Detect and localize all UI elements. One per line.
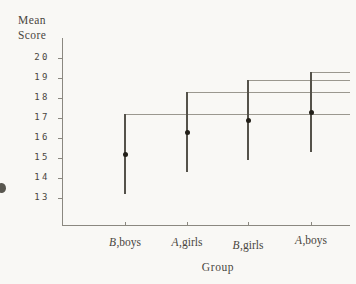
y-tick-mark [58,78,62,79]
x-axis [62,225,350,226]
y-tick-label: 18 [22,92,50,102]
y-tick-label: 13 [22,192,50,202]
group-school-letter: B [233,239,241,251]
group-school-letter: A [172,236,180,248]
group-label-rest: ,boys [302,234,327,246]
x-tick-mark [187,222,188,226]
x-tick-mark [311,222,312,226]
reference-line [125,114,350,115]
y-tick-mark [58,58,62,59]
y-tick-mark [58,138,62,139]
y-tick-label: 15 [22,152,50,162]
mean-point [309,110,314,115]
x-tick-label: B,girls [233,239,264,251]
group-label-rest: ,girls [240,239,263,251]
reference-line [187,92,350,93]
y-tick-mark [58,198,62,199]
x-tick-mark [248,222,249,226]
reference-line [311,72,350,73]
mean-point [246,118,251,123]
x-axis-title: Group [202,261,234,273]
y-axis-title-line2: Score [18,28,46,43]
y-tick-mark [58,98,62,99]
y-tick-mark [58,178,62,179]
x-tick-label: B,boys [109,236,141,248]
y-tick-mark [58,158,62,159]
mean-point [123,152,128,157]
x-tick-label: A,boys [295,234,327,246]
y-tick-label: 19 [22,72,50,82]
y-tick-label: 17 [22,112,50,122]
y-axis [62,38,63,226]
scan-artifact-mark [0,183,6,193]
y-axis-title: Mean Score [18,13,46,43]
mean-score-comparison-chart: Mean Score 2019181716151413 B,boysA,girl… [0,0,356,284]
y-tick-mark [58,118,62,119]
mean-point [185,130,190,135]
group-school-letter: B [109,236,117,248]
reference-line [248,80,350,81]
group-school-letter: A [295,234,303,246]
group-label-rest: ,boys [116,236,141,248]
x-tick-mark [125,222,126,226]
group-label-rest: ,girls [179,236,202,248]
y-tick-label: 16 [22,132,50,142]
y-tick-label: 14 [22,172,50,182]
y-axis-title-line1: Mean [18,13,46,28]
y-tick-label: 20 [22,52,50,62]
x-tick-label: A,girls [172,236,203,248]
